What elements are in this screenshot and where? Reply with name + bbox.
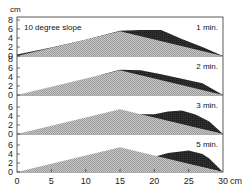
svg-text:2: 2: [8, 158, 13, 168]
y-axis-labels: 0 2 4 6 8 0 2 4 6 8 0 2 4 6 0 2 4 6: [8, 15, 13, 177]
slope-title: 10 degree slope: [24, 23, 82, 32]
svg-text:0: 0: [14, 176, 19, 186]
svg-text:10: 10: [81, 176, 91, 186]
panel-label: 5 min.: [196, 140, 218, 149]
panel-3: 3 min.: [17, 101, 223, 134]
svg-text:0: 0: [8, 129, 13, 139]
panel-label: 3 min.: [196, 101, 218, 110]
svg-text:6: 6: [8, 102, 13, 112]
svg-text:5: 5: [49, 176, 54, 186]
panel-4: 5 min.: [17, 140, 223, 172]
svg-text:8: 8: [8, 54, 13, 64]
svg-text:0: 0: [8, 90, 13, 100]
svg-text:30: 30: [218, 176, 228, 186]
svg-text:15: 15: [115, 176, 125, 186]
svg-text:2: 2: [8, 42, 13, 52]
chart: cm 10 degree slope 1 min. 2 min. 3 min. …: [0, 0, 246, 193]
svg-text:4: 4: [8, 72, 13, 82]
svg-text:25: 25: [184, 176, 194, 186]
svg-text:8: 8: [8, 15, 13, 25]
svg-text:4: 4: [8, 33, 13, 43]
panel-label: 2 min.: [196, 62, 218, 71]
svg-text:4: 4: [8, 149, 13, 159]
svg-text:6: 6: [8, 24, 13, 34]
panel-label: 1 min.: [196, 23, 218, 32]
x-axis-labels: 0 5 10 15 20 25 30: [14, 176, 228, 186]
x-unit-label: cm: [230, 176, 242, 186]
panel-1: 10 degree slope 1 min.: [17, 23, 223, 56]
svg-text:6: 6: [8, 63, 13, 73]
panel-2: 2 min.: [17, 62, 223, 95]
y-unit-label: cm: [10, 5, 21, 14]
y-axis-ticks: [17, 20, 20, 172]
svg-text:4: 4: [8, 111, 13, 121]
svg-text:2: 2: [8, 120, 13, 130]
svg-text:2: 2: [8, 81, 13, 91]
svg-text:0: 0: [8, 167, 13, 177]
svg-text:6: 6: [8, 140, 13, 150]
svg-text:20: 20: [149, 176, 159, 186]
